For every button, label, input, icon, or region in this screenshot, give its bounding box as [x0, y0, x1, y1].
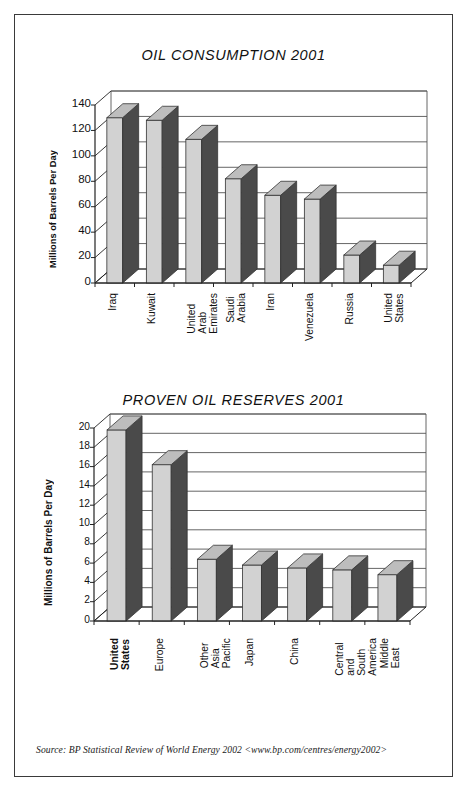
bar-column	[265, 181, 297, 283]
chart1-x-label: Iran	[266, 293, 277, 311]
figure-page: OIL CONSUMPTION 2001 Millions of Barrels…	[0, 0, 467, 791]
chart1-y-axis-title: Millions of Barrels Per Day	[48, 122, 58, 297]
chart2-svg	[94, 414, 450, 635]
chart2-x-label: Other Asia Pacific	[200, 638, 233, 668]
bar-column	[333, 556, 368, 621]
chart2-x-label: China	[290, 638, 301, 665]
chart1-y-tick: 100	[61, 148, 91, 160]
chart1-title: OIL CONSUMPTION 2001	[0, 47, 467, 63]
chart1-x-label: United States	[384, 293, 406, 323]
bar-column	[107, 416, 142, 621]
chart2-y-tick: 12	[60, 498, 90, 509]
bar-column	[288, 554, 323, 621]
chart1-svg	[95, 91, 451, 297]
chart2-y-tick: 8	[60, 536, 90, 547]
chart2-y-axis-title: Millions of Barrels Per Day	[43, 448, 54, 638]
chart2-x-label: Central and South America	[335, 638, 379, 676]
chart1-x-label: Venezuela	[305, 293, 316, 341]
chart1-y-tick: 40	[61, 224, 91, 236]
source-note: Source: BP Statistical Review of World E…	[36, 744, 387, 755]
chart2-y-tick: 6	[60, 556, 90, 567]
chart2-y-tick: 16	[60, 459, 90, 470]
chart1-y-tick: 80	[61, 173, 91, 185]
chart2-y-tick: 10	[60, 517, 90, 528]
chart2-title: PROVEN OIL RESERVES 2001	[0, 392, 467, 408]
chart2-y-tick: 18	[60, 440, 90, 451]
bar-column	[378, 561, 413, 621]
chart2-x-label: Europe	[155, 638, 166, 671]
bar-column	[225, 165, 257, 283]
chart1-y-tick: 20	[61, 249, 91, 261]
chart1-y-tick: 140	[61, 97, 91, 109]
bar-column	[146, 106, 178, 283]
chart1-y-tick: 120	[61, 122, 91, 134]
chart1-x-label: United Arab Emirates	[187, 293, 220, 334]
chart1-x-label: Russia	[345, 293, 356, 324]
chart2-x-label: Middle East	[380, 638, 402, 668]
chart1-x-label: Saudi Arabia	[226, 293, 248, 323]
chart1-y-tick: 0	[61, 275, 91, 287]
chart2-y-tick: 20	[60, 421, 90, 432]
chart2-y-tick: 0	[60, 614, 90, 625]
chart1-x-label: Iraq	[108, 293, 119, 311]
chart1-x-label: Kuwait	[147, 293, 158, 324]
bar-column	[243, 551, 278, 621]
chart1-y-tick: 60	[61, 198, 91, 210]
bar-column	[197, 545, 232, 621]
bar-column	[107, 104, 139, 283]
chart2-y-tick: 14	[60, 479, 90, 490]
bar-column	[304, 185, 336, 283]
chart2-x-label: Japan	[245, 638, 256, 666]
chart2-y-tick: 4	[60, 575, 90, 586]
chart2-x-label: United States	[110, 638, 132, 670]
bar-column	[186, 125, 218, 283]
bar-column	[152, 451, 187, 621]
chart2-y-tick: 2	[60, 594, 90, 605]
